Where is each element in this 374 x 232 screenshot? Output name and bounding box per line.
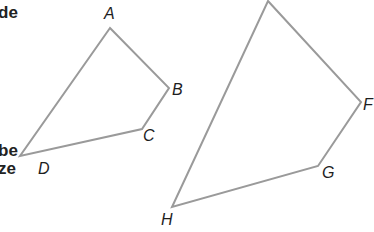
vertex-label-h: H: [161, 211, 173, 228]
similar-quadrilaterals-figure: A B C D F G H: [0, 0, 374, 232]
vertex-label-d: D: [38, 160, 50, 177]
vertex-label-c: C: [143, 127, 155, 144]
vertex-label-f: F: [363, 96, 374, 113]
vertex-label-b: B: [172, 81, 183, 98]
vertex-label-a: A: [103, 5, 115, 22]
vertex-label-g: G: [322, 164, 334, 181]
